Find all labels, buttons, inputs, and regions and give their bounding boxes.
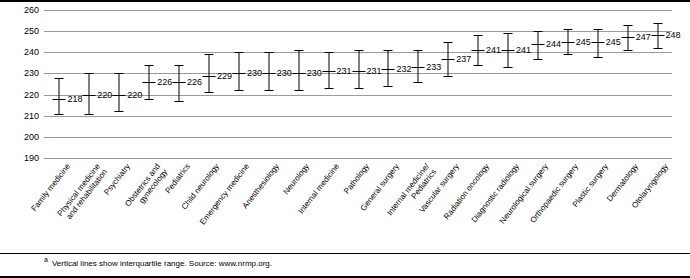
y-axis-tick-label: 220 bbox=[24, 90, 39, 100]
whisker-cap-upper bbox=[414, 50, 423, 51]
y-axis-tick-label: 210 bbox=[24, 111, 39, 121]
y-axis-tick-label: 260 bbox=[24, 5, 39, 15]
whisker-cap-lower bbox=[175, 101, 184, 102]
whisker-cap-lower bbox=[504, 67, 513, 68]
whisker-cap-lower bbox=[474, 65, 483, 66]
data-value-label: 230 bbox=[277, 68, 292, 78]
footnote-text: Vertical lines show interquartile range.… bbox=[52, 259, 272, 268]
whisker-cap-upper bbox=[504, 33, 513, 34]
whisker-cap-upper bbox=[444, 42, 453, 43]
x-axis-category-label: Pediatrics bbox=[163, 162, 192, 195]
plot-area: 190200210220230240250260 218220220226226… bbox=[44, 10, 672, 158]
footnote: aVertical lines show interquartile range… bbox=[44, 256, 272, 268]
median-marker bbox=[262, 73, 275, 74]
data-value-label: 226 bbox=[187, 77, 202, 87]
median-marker bbox=[412, 67, 425, 68]
interquartile-line bbox=[328, 52, 329, 88]
y-axis-tick-label: 250 bbox=[24, 26, 39, 36]
whisker-cap-lower bbox=[623, 50, 632, 51]
median-marker bbox=[53, 99, 66, 100]
median-marker bbox=[651, 35, 664, 36]
median-marker bbox=[561, 42, 574, 43]
data-value-label: 232 bbox=[396, 64, 411, 74]
whisker-cap-lower bbox=[85, 114, 94, 115]
median-marker bbox=[83, 95, 96, 96]
data-value-label: 231 bbox=[367, 66, 382, 76]
whisker-cap-lower bbox=[653, 48, 662, 49]
interquartile-line bbox=[208, 54, 209, 92]
whisker-cap-lower bbox=[444, 76, 453, 77]
data-value-label: 245 bbox=[606, 37, 621, 47]
whisker-cap-lower bbox=[384, 86, 393, 87]
data-value-label: 220 bbox=[97, 90, 112, 100]
data-value-label: 220 bbox=[127, 90, 142, 100]
median-marker bbox=[173, 82, 186, 83]
median-marker bbox=[113, 95, 126, 96]
whisker-cap-lower bbox=[593, 57, 602, 58]
interquartile-line bbox=[298, 50, 299, 90]
footnote-divider bbox=[0, 253, 690, 254]
y-axis-tick-label: 240 bbox=[24, 47, 39, 57]
median-marker bbox=[382, 69, 395, 70]
whisker-cap-lower bbox=[294, 90, 303, 91]
whisker-cap-lower bbox=[264, 90, 273, 91]
interquartile-line bbox=[119, 73, 120, 111]
whisker-cap-upper bbox=[175, 65, 184, 66]
whisker-cap-lower bbox=[324, 88, 333, 89]
whisker-cap-lower bbox=[204, 92, 213, 93]
interquartile-line bbox=[179, 65, 180, 101]
interquartile-line bbox=[59, 78, 60, 114]
whisker-cap-upper bbox=[85, 73, 94, 74]
whisker-cap-upper bbox=[294, 50, 303, 51]
interquartile-line bbox=[268, 52, 269, 90]
whisker-cap-lower bbox=[414, 82, 423, 83]
whisker-cap-upper bbox=[533, 31, 542, 32]
interquartile-line bbox=[358, 50, 359, 88]
data-series: 2182202202262262292302302302312312322332… bbox=[44, 10, 672, 158]
data-value-label: 241 bbox=[516, 45, 531, 55]
chart-figure: 190200210220230240250260 218220220226226… bbox=[0, 0, 690, 278]
y-axis-tick-label: 230 bbox=[24, 68, 39, 78]
data-value-label: 241 bbox=[486, 45, 501, 55]
median-marker bbox=[531, 44, 544, 45]
whisker-cap-upper bbox=[593, 29, 602, 30]
whisker-cap-upper bbox=[115, 73, 124, 74]
whisker-cap-upper bbox=[204, 54, 213, 55]
whisker-cap-lower bbox=[55, 114, 64, 115]
median-marker bbox=[621, 37, 634, 38]
data-value-label: 245 bbox=[576, 37, 591, 47]
whisker-cap-upper bbox=[384, 50, 393, 51]
whisker-cap-lower bbox=[115, 111, 124, 112]
whisker-cap-upper bbox=[354, 50, 363, 51]
data-value-label: 237 bbox=[456, 54, 471, 64]
data-value-label: 244 bbox=[546, 39, 561, 49]
data-value-label: 230 bbox=[247, 68, 262, 78]
whisker-cap-lower bbox=[145, 99, 154, 100]
median-marker bbox=[591, 42, 604, 43]
median-marker bbox=[322, 71, 335, 72]
x-axis-category-label: Pathology bbox=[342, 162, 371, 196]
whisker-cap-upper bbox=[653, 23, 662, 24]
gridline: 190 bbox=[44, 158, 672, 159]
median-marker bbox=[143, 82, 156, 83]
interquartile-line bbox=[238, 52, 239, 90]
interquartile-line bbox=[388, 50, 389, 86]
median-marker bbox=[292, 73, 305, 74]
median-marker bbox=[202, 76, 215, 77]
data-value-label: 231 bbox=[337, 66, 352, 76]
data-value-label: 248 bbox=[666, 30, 681, 40]
interquartile-line bbox=[418, 50, 419, 82]
x-axis-category-label: Neurology bbox=[282, 162, 312, 196]
median-marker bbox=[502, 50, 515, 51]
whisker-cap-upper bbox=[563, 29, 572, 30]
whisker-cap-upper bbox=[324, 52, 333, 53]
whisker-cap-lower bbox=[533, 59, 542, 60]
interquartile-line bbox=[537, 31, 538, 58]
whisker-cap-upper bbox=[623, 25, 632, 26]
y-axis-tick-label: 200 bbox=[24, 132, 39, 142]
data-value-label: 229 bbox=[217, 71, 232, 81]
data-value-label: 233 bbox=[426, 62, 441, 72]
interquartile-line bbox=[597, 29, 598, 56]
median-marker bbox=[442, 59, 455, 60]
data-value-label: 247 bbox=[636, 32, 651, 42]
